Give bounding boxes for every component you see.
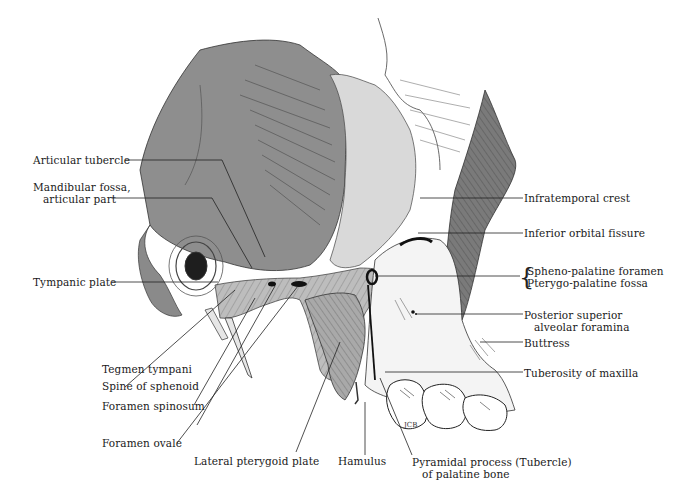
hamulus-shape: [355, 382, 358, 404]
label-pyramidal-process-line2: of palatine bone: [412, 468, 572, 480]
label-pterygo-palatine-fossa: Pterygo-palatine fossa: [527, 277, 648, 289]
temporal-squama: [140, 40, 346, 271]
label-articular-tubercle: Articular tubercle: [33, 154, 130, 166]
label-mandibular-fossa: Mandibular fossa, articular part: [33, 181, 131, 205]
label-posterior-superior-alveolar-foramina: Posterior superior alveolar foramina: [524, 309, 630, 333]
foramen-spinosum-shape: [268, 282, 276, 287]
label-tegmen-tympani: Tegmen tympani: [102, 363, 192, 375]
label-foramen-spinosum: Foramen spinosum: [102, 400, 205, 412]
external-acoustic-meatus: [185, 252, 207, 280]
label-spheno-palatine-foramen: Spheno-palatine foramen: [527, 265, 664, 277]
label-infratemporal-crest: Infratemporal crest: [524, 192, 630, 204]
label-lateral-pterygoid-plate: Lateral pterygoid plate: [194, 455, 319, 467]
label-foramen-ovale: Foramen ovale: [102, 437, 182, 449]
label-pyramidal-process: Pyramidal process (Tubercle) of palatine…: [412, 456, 572, 480]
label-tuberosity-of-maxilla: Tuberosity of maxilla: [524, 367, 638, 379]
label-spine-of-sphenoid: Spine of sphenoid: [102, 380, 199, 392]
anatomy-figure: JCB Articular tubercle Mandibular fossa,…: [0, 0, 685, 497]
label-hamulus: Hamulus: [338, 455, 386, 467]
artist-signature: JCB: [403, 421, 417, 429]
label-buttress: Buttress: [524, 337, 570, 349]
alveolar-foramen-dot: [411, 310, 415, 314]
foramen-ovale-shape: [291, 281, 307, 287]
label-psaf-line2: alveolar foramina: [524, 321, 630, 333]
label-mandibular-fossa-line1: Mandibular fossa,: [33, 181, 131, 193]
label-inferior-orbital-fissure: Inferior orbital fissure: [524, 227, 645, 239]
label-tympanic-plate: Tympanic plate: [33, 276, 116, 288]
label-pyramidal-process-line1: Pyramidal process (Tubercle): [412, 456, 572, 468]
label-psaf-line1: Posterior superior: [524, 309, 630, 321]
skull-illustration: JCB: [0, 0, 685, 497]
label-mandibular-fossa-line2: articular part: [33, 193, 131, 205]
